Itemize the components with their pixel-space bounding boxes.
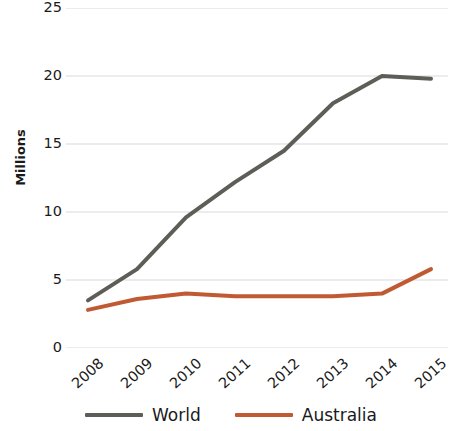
legend-entry[interactable]: Australia (235, 407, 377, 424)
series-line-australia (88, 269, 431, 310)
legend-swatch-icon (85, 413, 143, 417)
y-tick-label: 25 (28, 0, 62, 15)
x-tick-label: 2009 (114, 355, 156, 395)
y-tick-label: 5 (28, 272, 62, 287)
y-tick-label: 20 (28, 68, 62, 83)
legend-swatch-icon (235, 413, 293, 417)
x-tick-label: 2012 (261, 355, 303, 395)
y-tick-label: 15 (28, 136, 62, 151)
plot-svg (66, 8, 448, 348)
x-tick-label: 2011 (212, 355, 254, 395)
y-axis-tick-labels: 0510152025 (14, 0, 62, 431)
y-tick-label: 10 (28, 204, 62, 219)
plot-area (66, 8, 448, 348)
series-line-world (88, 76, 431, 300)
data-series-group (88, 76, 431, 310)
x-tick-label: 2008 (65, 355, 107, 395)
x-tick-label: 2013 (310, 355, 352, 395)
chart-legend: WorldAustralia (0, 399, 462, 431)
x-tick-label: 2015 (408, 355, 450, 395)
legend-entry[interactable]: World (85, 407, 201, 424)
x-tick-label: 2014 (359, 355, 401, 395)
legend-label: World (152, 407, 201, 424)
legend-label: Australia (302, 407, 377, 424)
x-tick-label: 2010 (163, 355, 205, 395)
line-chart: Millions 0510152025 20082009201020112012… (0, 0, 462, 431)
y-tick-label: 0 (28, 340, 62, 355)
